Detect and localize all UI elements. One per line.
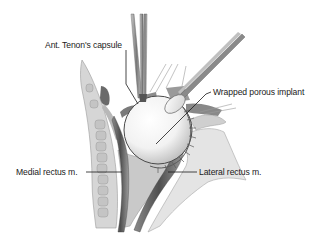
medical-illustration [0, 0, 324, 241]
label-lateral-rectus-muscle: Lateral rectus m. [199, 168, 261, 177]
label-wrapped-porous-implant: Wrapped porous implant [213, 88, 304, 97]
label-anterior-tenons-capsule: Ant. Tenon's capsule [45, 41, 122, 50]
medial-orbital-wall [81, 60, 121, 228]
orbit-cross-section-drawing [0, 0, 324, 241]
label-medial-rectus-muscle: Medial rectus m. [16, 168, 77, 177]
forceps-instrument [131, 14, 147, 102]
